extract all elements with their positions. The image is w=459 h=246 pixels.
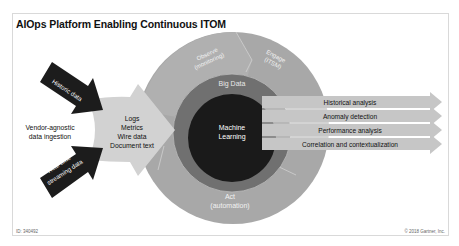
ingestion-label-line2: data ingestion	[29, 133, 72, 141]
aiops-diagram: Historic data Real-time streaming data V…	[0, 0, 459, 246]
ingestion-label-line1: Vendor-agnostic	[25, 124, 75, 132]
big-data-label: Big Data	[219, 80, 246, 88]
machine-learning-line1: Machine	[219, 124, 246, 131]
data-type-document: Document text	[110, 142, 154, 149]
output-historical-analysis: Historical analysis	[324, 99, 377, 107]
output-correlation: Correlation and contextualization	[302, 141, 398, 148]
data-type-logs: Logs	[125, 115, 140, 123]
data-type-metrics: Metrics	[121, 124, 144, 131]
figure-id: ID: 340492	[16, 229, 38, 234]
output-anomaly-detection: Anomaly detection	[323, 113, 378, 121]
output-performance-analysis: Performance analysis	[318, 127, 382, 135]
act-label-line1: Act	[225, 193, 235, 200]
act-label-line2: (automation)	[210, 202, 249, 210]
copyright: © 2018 Gartner, Inc.	[404, 229, 445, 234]
data-type-wire: Wire data	[117, 133, 146, 140]
machine-learning-line2: Learning	[218, 133, 245, 141]
